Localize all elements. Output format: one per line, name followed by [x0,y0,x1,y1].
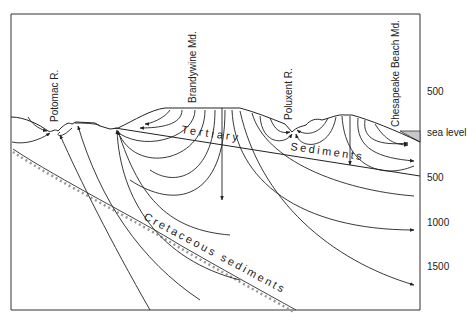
label-brandywine: Brandywine Md. [187,31,198,103]
tick-500-below: 500 [427,172,444,183]
tick-1000: 1000 [427,217,450,228]
tick-1500: 1500 [427,261,450,272]
label-sediments: Sediments [290,140,365,162]
label-cretaceous: Cretaceous sediments [142,210,288,295]
tick-sea-level: sea level [427,127,466,138]
label-chesapeake: Chesapeake Beach Md. [390,20,401,127]
cross-section-diagram: Potomac R. Brandywine Md. Poluxent R. Ch… [0,0,476,325]
cretaceous-surface [13,149,296,312]
label-poluxent: Poluxent R. [283,68,294,120]
tick-500-above: 500 [427,86,444,97]
depth-axis: 500 sea level 500 1000 1500 [427,86,466,272]
label-potomac: Potomac R. [49,70,60,122]
